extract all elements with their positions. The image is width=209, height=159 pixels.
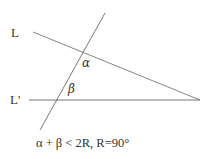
formula-text: α + β < 2R, R=90° <box>36 137 129 150</box>
angle-beta-label: β <box>68 83 75 95</box>
label-L: L <box>11 26 19 39</box>
transversal-line <box>40 13 105 130</box>
label-L-prime: L' <box>10 93 20 106</box>
angle-alpha-label: α <box>82 57 90 69</box>
line-L <box>33 32 200 100</box>
